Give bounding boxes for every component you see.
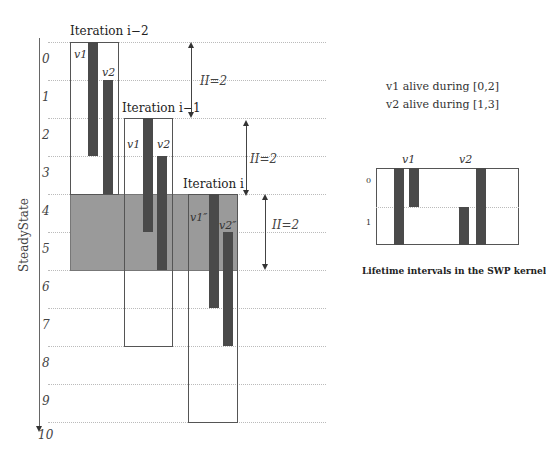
kernel-v2-bar bbox=[459, 207, 469, 245]
v1-lifetime-bar bbox=[209, 194, 219, 308]
kernel-v2-label: v2 bbox=[459, 153, 472, 166]
v2-label: v2 bbox=[102, 66, 115, 79]
ii-arrow bbox=[246, 122, 247, 194]
ii-label: II=2 bbox=[200, 74, 227, 88]
arrowhead-down-icon bbox=[188, 112, 194, 118]
axis-end-label: 10 bbox=[38, 428, 53, 442]
kernel-v2-bar bbox=[476, 168, 486, 245]
row-label: 6 bbox=[42, 280, 50, 294]
v1-label: v1″ bbox=[190, 211, 207, 224]
v2-alive-text: v2 alive during [1,3] bbox=[386, 98, 499, 111]
arrowhead-up-icon bbox=[262, 194, 268, 200]
kernel-v1-bar bbox=[394, 168, 404, 245]
arrowhead-up-icon bbox=[243, 120, 249, 126]
v1-alive-text: v1 alive during [0,2] bbox=[386, 80, 499, 93]
v1-lifetime-bar bbox=[143, 118, 153, 232]
iteration-label: Iteration i bbox=[183, 177, 244, 191]
ii-label: II=2 bbox=[272, 218, 299, 232]
v1-label: v1 bbox=[74, 48, 87, 61]
kernel-v1-bar bbox=[409, 168, 419, 207]
ii-label: II=2 bbox=[250, 152, 277, 166]
grid-line bbox=[48, 384, 326, 385]
kernel-row-label: 1 bbox=[366, 218, 371, 227]
row-label: 5 bbox=[42, 242, 50, 256]
ii-arrow bbox=[265, 196, 266, 268]
row-label: 0 bbox=[42, 52, 50, 66]
kernel-v1-label: v1 bbox=[402, 153, 415, 166]
v2-label: v2″ bbox=[219, 219, 236, 232]
row-label: 9 bbox=[42, 394, 50, 408]
arrowhead-down-icon bbox=[262, 264, 268, 270]
time-axis bbox=[39, 38, 40, 428]
kernel-row-label: 0 bbox=[366, 176, 371, 185]
arrowhead-down-icon bbox=[243, 190, 249, 196]
v2-lifetime-bar bbox=[223, 232, 233, 346]
v2-lifetime-bar bbox=[157, 156, 167, 270]
kernel-caption: Lifetime intervals in the SWP kernel bbox=[362, 266, 546, 276]
iteration-label: Iteration i−2 bbox=[70, 24, 149, 38]
row-label: 3 bbox=[42, 166, 50, 180]
row-label: 4 bbox=[42, 204, 50, 218]
row-label: 2 bbox=[42, 128, 50, 142]
steady-state-label: SteadyState bbox=[17, 198, 31, 272]
v1-label: v1 bbox=[127, 138, 140, 151]
row-label: 1 bbox=[42, 90, 50, 104]
v2-label: v2 bbox=[157, 138, 170, 151]
v1-lifetime-bar bbox=[88, 42, 98, 156]
v2-lifetime-bar bbox=[103, 80, 113, 194]
row-label: 8 bbox=[42, 356, 50, 370]
arrowhead-up-icon bbox=[188, 42, 194, 48]
row-label: 7 bbox=[42, 318, 50, 332]
grid-line bbox=[48, 346, 326, 347]
grid-line bbox=[48, 422, 326, 423]
grid-line bbox=[48, 308, 326, 309]
ii-arrow bbox=[191, 44, 192, 116]
